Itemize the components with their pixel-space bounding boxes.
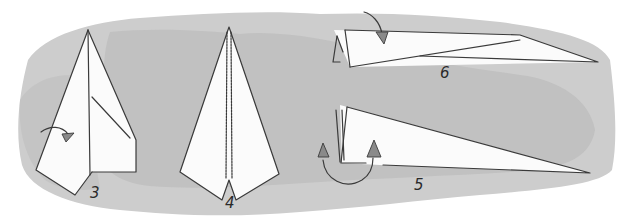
step-label-5: 5 <box>414 176 424 194</box>
step-label-6: 6 <box>440 64 450 82</box>
folding-diagram: 3 4 6 5 <box>0 0 621 223</box>
step-label-4: 4 <box>225 194 235 212</box>
step-label-3: 3 <box>90 184 100 202</box>
